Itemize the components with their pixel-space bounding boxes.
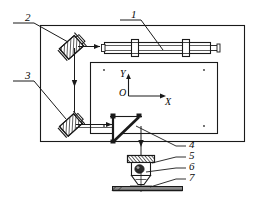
callout-label-7: 7: [189, 172, 195, 183]
workpiece-plate: [112, 187, 183, 191]
lower-left-beam-splitter: [57, 110, 87, 139]
callout-label-3: 3: [25, 70, 31, 81]
figure-canvas: 2 3 1 4 5 6 7 Y O X: [0, 0, 257, 207]
callout-label-1: 1: [131, 9, 137, 20]
upper-left-beam-splitter: [57, 31, 88, 62]
horizontal-guide-rail: [102, 40, 221, 57]
coordinate-axes: [126, 74, 166, 99]
callout-label-2: 2: [25, 12, 31, 23]
axis-label-x: X: [165, 97, 171, 107]
triangular-prism-mirror: [110, 114, 142, 144]
axis-label-origin: O: [119, 88, 126, 98]
beam-vertical-to-nozzle: [138, 126, 143, 156]
axis-label-y: Y: [120, 69, 126, 79]
diagram-svg: [0, 0, 257, 207]
work-table: [91, 63, 218, 134]
